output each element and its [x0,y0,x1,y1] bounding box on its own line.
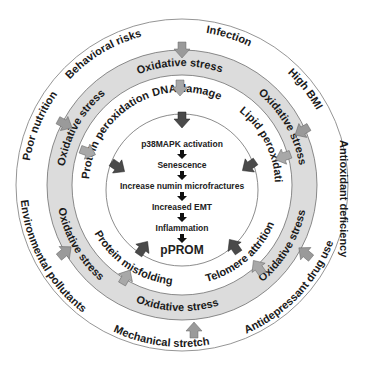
factor-antioxidant-deficiency: Antioxidant deficiency [338,140,350,258]
pathway-step-senescence: Senescence [157,160,206,170]
factor-antioxidant-wrap: Antioxidant deficiency [338,140,350,258]
pathway-step-emt: Increased EMT [152,202,213,212]
diagram-canvas: Poor nutrition Behavioral risks Infectio… [0,0,365,370]
pathway-step-inflammation: Inflammation [156,223,209,233]
pathway-step-pprom: pPROM [160,243,203,257]
pathway-step-microfractures: Increase numin microfractures [120,181,245,191]
pathway-step-p38mapk: p38MAPK activation [141,139,223,149]
